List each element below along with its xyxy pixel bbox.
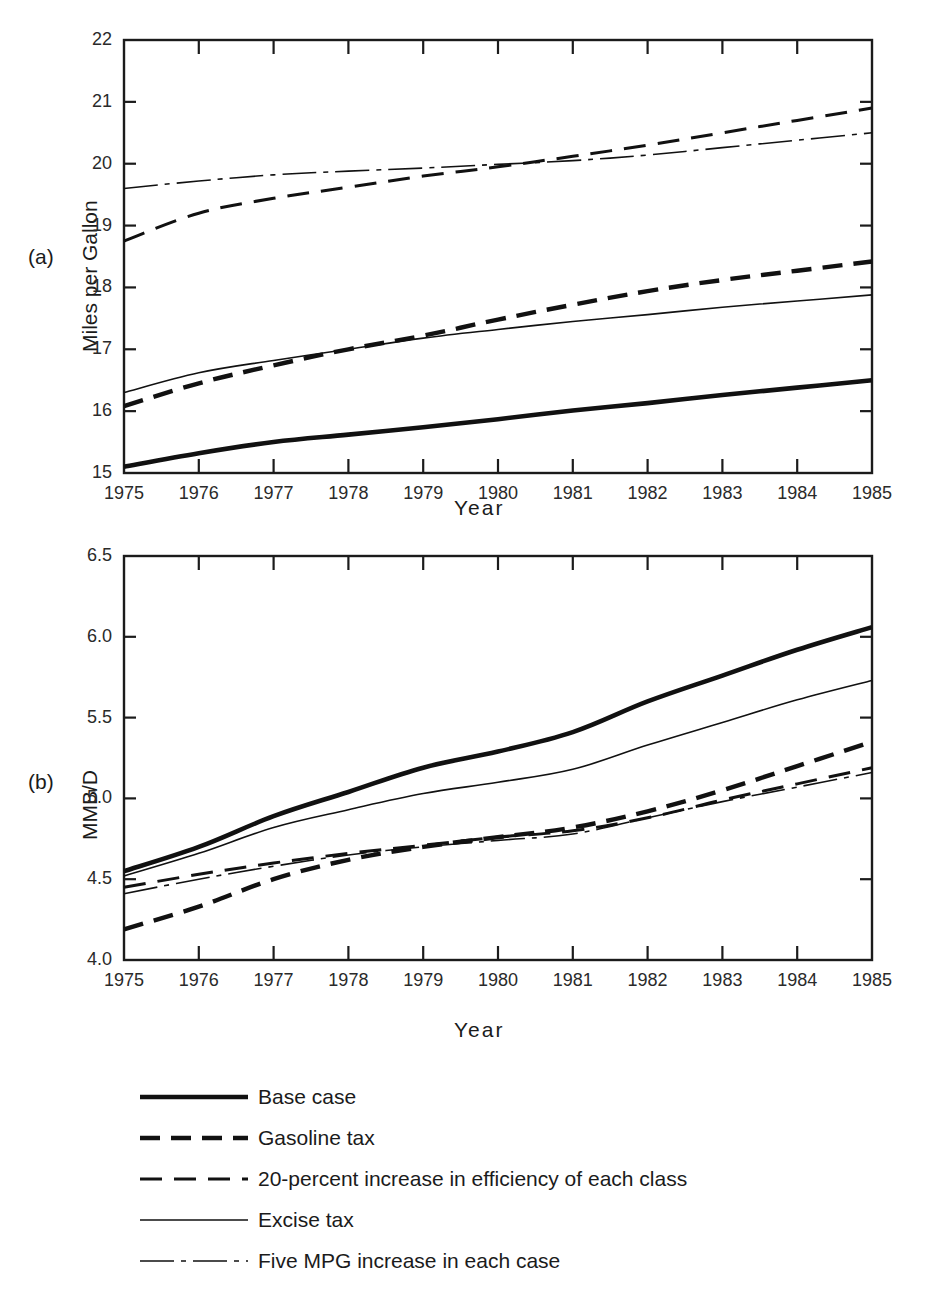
series-line	[124, 133, 872, 189]
series-line	[124, 295, 872, 393]
y-tick-label: 5.0	[50, 787, 112, 808]
series-line	[124, 261, 872, 406]
y-tick-label: 18	[50, 276, 112, 297]
legend-line-swatch	[140, 1085, 252, 1109]
x-tick-label: 1985	[827, 970, 917, 991]
y-tick-label: 4.5	[50, 868, 112, 889]
y-tick-label: 21	[50, 91, 112, 112]
figure-two-panel-line-charts: (a) Miles per Gallon Year 15161718192021…	[0, 0, 932, 1299]
series-line	[124, 768, 872, 888]
y-tick-label: 16	[50, 400, 112, 421]
series-line	[124, 380, 872, 467]
y-tick-label: 22	[50, 29, 112, 50]
panel-a-plot	[0, 0, 932, 530]
panel-b: (b) MMB/D Year 4.04.55.05.56.06.51975197…	[0, 530, 932, 1060]
legend: Base caseGasoline tax20-percent increase…	[0, 1085, 932, 1285]
legend-item-label: Base case	[258, 1085, 356, 1109]
y-tick-label: 19	[50, 215, 112, 236]
y-tick-label: 15	[50, 462, 112, 483]
legend-item-label: Excise tax	[258, 1208, 354, 1232]
legend-line-swatch	[140, 1249, 252, 1273]
series-line	[124, 108, 872, 241]
legend-line-swatch	[140, 1208, 252, 1232]
panel-a: (a) Miles per Gallon Year 15161718192021…	[0, 0, 932, 530]
legend-item-label: 20-percent increase in efficiency of eac…	[258, 1167, 687, 1191]
series-line	[124, 627, 872, 871]
y-tick-label: 5.5	[50, 707, 112, 728]
y-tick-label: 4.0	[50, 949, 112, 970]
legend-item-label: Five MPG increase in each case	[258, 1249, 560, 1273]
legend-item-label: Gasoline tax	[258, 1126, 375, 1150]
x-tick-label: 1985	[827, 483, 917, 504]
series-line	[124, 742, 872, 929]
y-tick-label: 6.5	[50, 545, 112, 566]
y-tick-label: 6.0	[50, 626, 112, 647]
panel-a-letter: (a)	[28, 245, 54, 269]
y-tick-label: 17	[50, 338, 112, 359]
y-tick-label: 20	[50, 153, 112, 174]
legend-line-swatch	[140, 1126, 252, 1150]
panel-b-x-axis-title: Year	[454, 1018, 504, 1042]
legend-line-swatch	[140, 1167, 252, 1191]
